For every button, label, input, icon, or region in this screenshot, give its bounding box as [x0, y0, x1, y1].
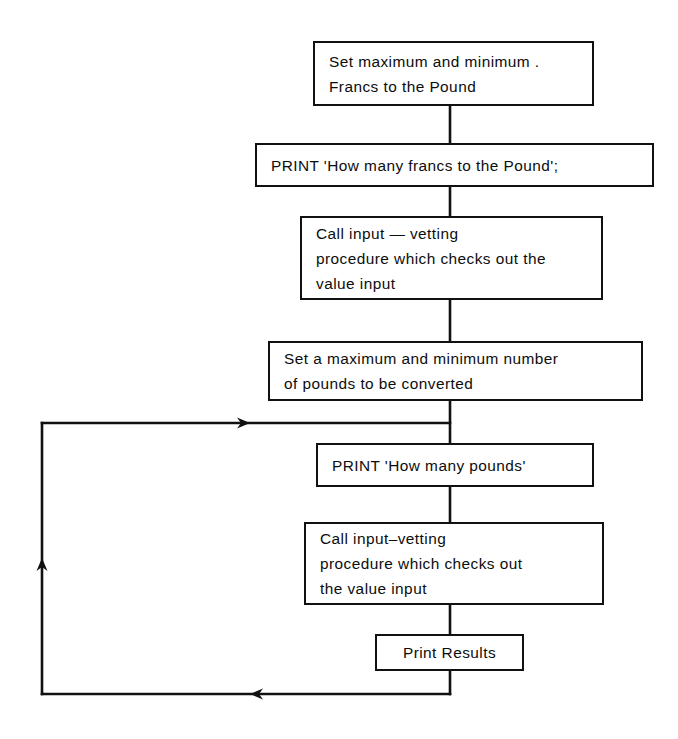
set-maximum-minimum-pounds-box-line-1: Set a maximum and minimum number — [270, 346, 641, 371]
call-input-vetting-pounds-box-line-1: Call input–vetting — [306, 526, 602, 551]
set-maximum-minimum-francs-box-line-2: Francs to the Pound — [315, 74, 592, 99]
print-how-many-pounds-box-line-1: PRINT 'How many pounds' — [318, 453, 592, 478]
set-maximum-minimum-francs-box: Set maximum and minimum .Francs to the P… — [313, 41, 594, 106]
call-input-vetting-pounds-box: Call input–vettingprocedure which checks… — [304, 522, 604, 605]
call-input-vetting-pounds-box-line-3: the value input — [306, 576, 602, 601]
call-input-vetting-francs-box: Call input — vettingprocedure which chec… — [300, 216, 603, 300]
call-input-vetting-pounds-box-line-2: procedure which checks out — [306, 551, 602, 576]
print-how-many-francs-box: PRINT 'How many francs to the Pound'; — [255, 143, 654, 187]
print-how-many-pounds-box: PRINT 'How many pounds' — [316, 443, 594, 487]
call-input-vetting-francs-box-line-1: Call input — vetting — [302, 221, 601, 246]
print-results-box: Print Results — [375, 634, 524, 671]
print-results-box-line-1: Print Results — [403, 640, 496, 665]
flowchart-canvas: Set maximum and minimum .Francs to the P… — [0, 0, 678, 739]
call-input-vetting-francs-box-line-2: procedure which checks out the — [302, 246, 601, 271]
call-input-vetting-francs-box-line-3: value input — [302, 271, 601, 296]
set-maximum-minimum-pounds-box-line-2: of pounds to be converted — [270, 371, 641, 396]
set-maximum-minimum-pounds-box: Set a maximum and minimum numberof pound… — [268, 341, 643, 401]
print-how-many-francs-box-line-1: PRINT 'How many francs to the Pound'; — [257, 153, 652, 178]
set-maximum-minimum-francs-box-line-1: Set maximum and minimum . — [315, 49, 592, 74]
